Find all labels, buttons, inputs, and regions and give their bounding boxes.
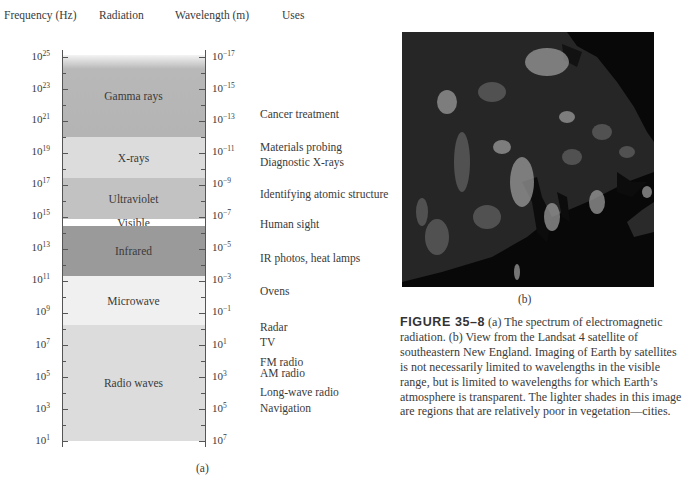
freq-label: 101 <box>10 434 50 446</box>
minor-tick <box>201 233 205 234</box>
freq-label: 103 <box>10 402 50 414</box>
band-label-xray: X-rays <box>118 152 149 164</box>
minor-tick <box>62 105 66 106</box>
minor-tick <box>62 201 66 202</box>
wavelength-label: 10−11 <box>212 145 234 157</box>
major-tick <box>199 121 205 122</box>
wavelength-label: 103 <box>212 370 227 382</box>
wavelength-label: 10−13 <box>212 113 235 125</box>
minor-tick <box>62 425 66 426</box>
wavelength-label: 10−7 <box>212 209 231 221</box>
wavelength-label: 10−9 <box>212 177 231 189</box>
wavelength-axis <box>205 50 206 447</box>
minor-tick <box>201 297 205 298</box>
band-xray: X-rays <box>62 137 205 178</box>
major-tick <box>199 153 205 154</box>
minor-tick <box>201 105 205 106</box>
major-tick <box>199 313 205 314</box>
minor-tick <box>62 297 66 298</box>
major-tick <box>62 345 68 346</box>
minor-tick <box>201 361 205 362</box>
freq-label: 105 <box>10 370 50 382</box>
use-atomic-structure: Identifying atomic structure <box>260 188 388 200</box>
header-frequency: Frequency (Hz) <box>4 9 76 21</box>
band-label-radio: Radio waves <box>104 377 163 389</box>
major-tick <box>62 57 68 58</box>
major-tick <box>199 409 205 410</box>
freq-label: 1025 <box>10 50 50 62</box>
band-label-infrared: Infrared <box>115 245 152 257</box>
use-human-sight: Human sight <box>260 218 319 230</box>
major-tick <box>199 249 205 250</box>
minor-tick <box>201 73 205 74</box>
band-visible: Visible <box>62 219 205 226</box>
minor-tick <box>201 265 205 266</box>
wavelength-label: 105 <box>212 402 227 414</box>
use-materials-probing: Materials probing <box>260 141 342 153</box>
use-diagnostic-xrays: Diagnostic X-rays <box>260 156 344 168</box>
minor-tick <box>62 73 66 74</box>
minor-tick <box>62 329 66 330</box>
minor-tick <box>201 393 205 394</box>
major-tick <box>62 153 68 154</box>
major-tick <box>62 89 68 90</box>
minor-tick <box>201 169 205 170</box>
band-label-microwave: Microwave <box>107 295 159 307</box>
header-wavelength: Wavelength (m) <box>175 9 249 21</box>
figure-caption-text: (a) The spectrum of electromagnetic radi… <box>400 315 681 418</box>
wavelength-label: 101 <box>212 338 227 350</box>
wavelength-label: 10−15 <box>212 82 235 94</box>
major-tick <box>62 249 68 250</box>
minor-tick <box>62 265 66 266</box>
minor-tick <box>201 137 205 138</box>
major-tick <box>62 121 68 122</box>
wavelength-label: 107 <box>212 434 227 446</box>
band-radio: Radio waves <box>62 325 205 441</box>
band-label-uv: Ultraviolet <box>109 193 159 205</box>
minor-tick <box>62 361 66 362</box>
wavelength-label: 10−3 <box>212 273 231 285</box>
freq-label: 1023 <box>10 82 50 94</box>
minor-tick <box>201 201 205 202</box>
freq-label: 1011 <box>10 273 50 285</box>
caption-b: (b) <box>518 293 531 305</box>
major-tick <box>62 281 68 282</box>
band-uv: Ultraviolet <box>62 178 205 219</box>
major-tick <box>199 345 205 346</box>
major-tick <box>199 89 205 90</box>
major-tick <box>199 441 205 442</box>
major-tick <box>62 377 68 378</box>
band-infrared: Infrared <box>62 226 205 276</box>
major-tick <box>62 185 68 186</box>
use-ovens: Ovens <box>260 285 289 297</box>
major-tick <box>199 217 205 218</box>
minor-tick <box>201 329 205 330</box>
wavelength-label: 10−1 <box>212 305 231 317</box>
minor-tick <box>201 425 205 426</box>
band-label-gamma: Gamma rays <box>104 90 162 102</box>
band-gamma: Gamma rays <box>62 55 205 137</box>
minor-tick <box>62 137 66 138</box>
freq-label: 1021 <box>10 113 50 125</box>
figure-label: FIGURE 35–8 <box>400 315 485 329</box>
use-tv: TV <box>260 336 275 348</box>
freq-label: 1015 <box>10 209 50 221</box>
use-navigation: Navigation <box>260 402 311 414</box>
freq-label: 109 <box>10 305 50 317</box>
freq-label: 1013 <box>10 241 50 253</box>
freq-label: 1019 <box>10 145 50 157</box>
major-tick <box>199 57 205 58</box>
figure-caption: FIGURE 35–8 (a) The spectrum of electrom… <box>400 315 683 419</box>
major-tick <box>199 281 205 282</box>
freq-label: 1017 <box>10 177 50 189</box>
major-tick <box>199 377 205 378</box>
minor-tick <box>62 233 66 234</box>
band-microwave: Microwave <box>62 276 205 325</box>
caption-a: (a) <box>196 462 209 474</box>
satellite-image <box>402 32 654 287</box>
major-tick <box>62 409 68 410</box>
freq-label: 107 <box>10 338 50 350</box>
use-radar: Radar <box>260 321 287 333</box>
major-tick <box>62 313 68 314</box>
minor-tick <box>62 169 66 170</box>
